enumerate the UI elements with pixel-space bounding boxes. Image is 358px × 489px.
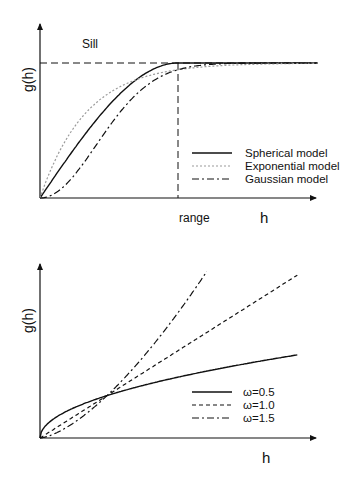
legend: ω=0.5 ω=1.0 ω=1.5 — [192, 386, 275, 424]
x-axis-label: h — [260, 209, 268, 226]
y-axis-label: g(h) — [20, 308, 36, 333]
series-line-omega-1-5 — [40, 271, 207, 438]
variogram-models-chart: Sill range h g(h) Spherical model Expone… — [20, 24, 340, 226]
legend-label-gaussian: Gaussian model — [245, 173, 328, 185]
figure: Sill range h g(h) Spherical model Expone… — [0, 0, 358, 489]
legend: Spherical model Exponential model Gaussi… — [192, 147, 340, 185]
sill-label: Sill — [82, 37, 98, 51]
legend-label-exponential: Exponential model — [245, 160, 340, 172]
legend-label-omega-1-5: ω=1.5 — [243, 412, 275, 424]
power-model-chart: h g(h) ω=0.5 ω=1.0 ω=1.5 — [20, 264, 316, 466]
range-label: range — [179, 211, 210, 225]
legend-label-omega-0-5: ω=0.5 — [243, 386, 275, 398]
legend-label-spherical: Spherical model — [245, 147, 327, 159]
y-axis-label: g(h) — [20, 67, 36, 92]
legend-label-omega-1-0: ω=1.0 — [243, 399, 275, 411]
x-axis-label: h — [262, 449, 270, 466]
